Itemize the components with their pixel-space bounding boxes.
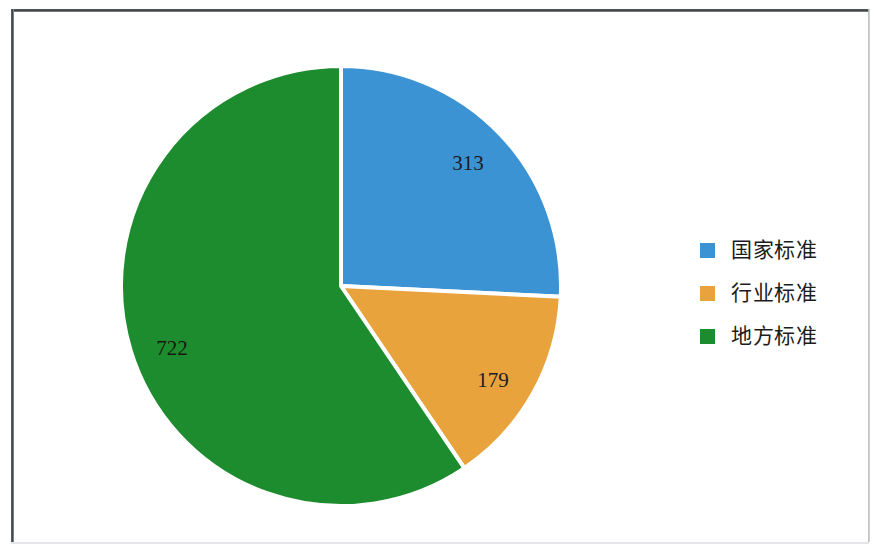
legend-item-industry-standard[interactable]: 行业标准 bbox=[700, 272, 850, 315]
pie-slices-group bbox=[121, 66, 561, 506]
pie-chart-figure: 313179722 国家标准 行业标准 地方标准 bbox=[0, 0, 872, 547]
pie-slice-value-label: 179 bbox=[477, 368, 509, 392]
legend-label-local-standard: 地方标准 bbox=[731, 326, 817, 347]
legend-label-industry-standard: 行业标准 bbox=[731, 283, 817, 304]
page-frame-right-rule bbox=[868, 9, 870, 542]
legend-item-national-standard[interactable]: 国家标准 bbox=[700, 229, 850, 272]
plot-area: 313179722 bbox=[0, 0, 660, 547]
chart-legend: 国家标准 行业标准 地方标准 bbox=[700, 229, 850, 358]
legend-swatch-icon-industry-standard bbox=[700, 286, 715, 301]
legend-swatch-icon-local-standard bbox=[700, 329, 715, 344]
legend-item-local-standard[interactable]: 地方标准 bbox=[700, 315, 850, 358]
pie-slice-value-label: 313 bbox=[452, 151, 484, 175]
pie-slice[interactable] bbox=[341, 66, 561, 297]
pie-slice-value-label: 722 bbox=[156, 336, 188, 360]
pie-svg: 313179722 bbox=[0, 0, 660, 547]
legend-swatch-icon-national-standard bbox=[700, 243, 715, 258]
legend-label-national-standard: 国家标准 bbox=[731, 240, 817, 261]
